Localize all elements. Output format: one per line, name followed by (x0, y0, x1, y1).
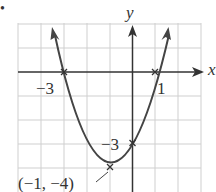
parabola-graph (0, 0, 216, 192)
curve-arrow-right-icon (162, 27, 172, 40)
x-axis-label: x (208, 61, 216, 78)
y-intercept-label: −3 (101, 136, 119, 153)
x-intercept-right-label: 1 (157, 80, 166, 97)
bullet: • (0, 2, 5, 16)
vertex-leader-line (96, 172, 108, 182)
y-axis-label: y (126, 4, 134, 21)
vertex-label: (−1, −4) (18, 175, 74, 192)
x-intercept-left-label: −3 (36, 80, 54, 97)
